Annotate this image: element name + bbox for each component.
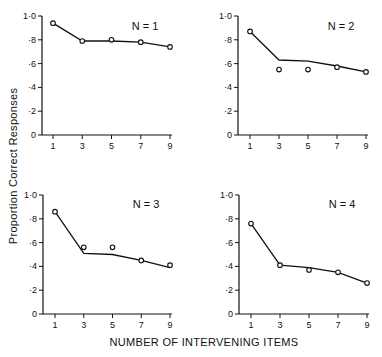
x-tick-label: 1 [247,141,252,151]
observed-point [248,29,253,34]
observed-point [80,39,85,44]
y-tick-label: ·2 [29,285,37,295]
y-tick-label: 1·0 [219,11,232,21]
y-tick-label: ·8 [29,214,37,224]
observed-point [249,221,254,226]
predicted-line [55,212,170,268]
observed-point [53,209,58,214]
observed-point [364,70,369,75]
y-tick-label: ·6 [224,59,232,69]
y-tick-label: ·8 [225,214,233,224]
observed-point [168,45,173,50]
x-tick-label: 3 [277,320,282,330]
observed-point [51,21,56,26]
x-tick-label: 5 [306,320,311,330]
x-tick-label: 7 [335,320,340,330]
observed-point [109,38,114,43]
x-tick-label: 3 [276,141,281,151]
x-tick-label: 9 [167,141,172,151]
observed-point [138,40,143,45]
x-axis-title: NUMBER OF INTERVENING ITEMS [110,336,299,348]
y-tick-label: ·8 [224,35,232,45]
panels: 0·2·4·6·81·013579N = 10·2·4·6·81·013579N… [23,11,370,330]
panel-title: N = 3 [133,198,160,210]
observed-point [306,67,311,72]
panel-n4: 0·2·4·6·81·013579N = 4 [220,190,370,330]
x-tick-label: 3 [81,320,86,330]
x-tick-label: 1 [50,141,55,151]
y-tick-label: ·2 [225,285,233,295]
y-tick-label: 0 [228,309,233,319]
x-tick-label: 7 [334,141,339,151]
y-tick-label: ·6 [28,59,36,69]
y-tick-label: ·2 [224,106,232,116]
x-tick-label: 5 [110,320,115,330]
observed-point [278,263,283,268]
observed-point [277,67,282,72]
y-tick-label: 0 [227,130,232,140]
x-tick-label: 3 [80,141,85,151]
observed-point [168,263,173,268]
y-tick-label: ·2 [28,106,36,116]
x-tick-label: 7 [139,320,144,330]
y-tick-label: ·4 [29,261,37,271]
x-tick-label: 1 [248,320,253,330]
panel-title: N = 1 [132,20,159,32]
y-tick-label: 1·0 [220,190,233,200]
x-tick-label: 5 [305,141,310,151]
figure: 0·2·4·6·81·013579N = 10·2·4·6·81·013579N… [0,0,382,357]
observed-point [110,245,115,250]
y-tick-label: 1·0 [24,190,37,200]
x-tick-label: 9 [167,320,172,330]
panel-title: N = 4 [329,198,356,210]
observed-point [81,245,86,250]
predicted-line [250,32,366,72]
panel-n2: 0·2·4·6·81·013579N = 2 [219,11,369,151]
panel-title: N = 2 [328,20,355,32]
x-tick-label: 9 [363,141,368,151]
y-tick-label: ·4 [225,261,233,271]
x-tick-label: 5 [109,141,114,151]
observed-point [336,270,341,275]
y-tick-label: ·6 [29,238,37,248]
predicted-line [251,224,367,284]
panel-n3: 0·2·4·6·81·013579N = 3 [24,190,173,330]
x-tick-label: 9 [364,320,369,330]
y-tick-label: 0 [31,130,36,140]
x-tick-label: 7 [138,141,143,151]
observed-point [307,268,312,273]
y-axis-title: Proportion Correct Responses [7,88,19,245]
x-tick-label: 1 [52,320,57,330]
y-tick-label: 0 [32,309,37,319]
y-tick-label: ·4 [224,82,232,92]
y-tick-label: ·4 [28,82,36,92]
observed-point [139,258,144,263]
y-tick-label: ·8 [28,35,36,45]
y-tick-label: ·6 [225,238,233,248]
panel-n1: 0·2·4·6·81·013579N = 1 [23,11,173,151]
observed-point [365,281,370,286]
y-tick-label: 1·0 [23,11,36,21]
small-multiples-chart: 0·2·4·6·81·013579N = 10·2·4·6·81·013579N… [0,0,382,357]
observed-point [335,65,340,70]
